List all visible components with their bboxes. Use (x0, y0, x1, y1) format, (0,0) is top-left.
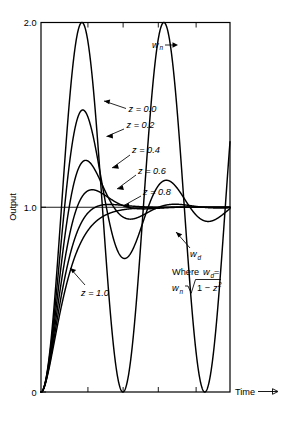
top-ticks (88, 23, 196, 28)
annotation-wn: w n (152, 40, 178, 52)
formula-wn-subscript: n (180, 288, 184, 295)
figure-container: 2.0 1.0 0 Output Time z = 0.0 z = 0.2 z … (0, 0, 281, 424)
arrowhead-z-06 (117, 185, 124, 190)
formula-where-text: Where (172, 267, 199, 277)
arrowhead-wd (176, 232, 182, 237)
wn-subscript: n (160, 44, 164, 51)
wd-subscript: d (198, 254, 202, 261)
left-ticks (41, 23, 46, 393)
z-label-10: z = 1.0 (80, 288, 110, 298)
arrowhead-wn (173, 42, 179, 47)
z-label-06: z = 0.6 (137, 166, 167, 176)
y-tick-label-bottom: 0 (31, 388, 36, 398)
annotation-formula: Where w d = w n 1 − z 2 (172, 267, 222, 295)
formula-equals: = (214, 267, 219, 277)
step-response-chart: 2.0 1.0 0 Output Time z = 0.0 z = 0.2 z … (0, 0, 281, 424)
x-axis-label: Time (235, 387, 255, 397)
annotation-z-10: z = 1.0 (70, 268, 110, 298)
annotation-z-08: z = 0.8 (123, 187, 172, 208)
y-axis-label: Output (8, 193, 18, 221)
formula-radicand: 1 − (197, 283, 210, 293)
y-tick-label-mid: 1.0 (24, 203, 37, 213)
z-label-04: z = 0.4 (131, 145, 160, 155)
formula-radicand-exponent: 2 (217, 281, 222, 288)
annotation-z-02: z = 0.2 (107, 120, 155, 138)
bottom-ticks (88, 387, 196, 392)
arrowhead-z-0 (104, 100, 110, 105)
y-tick-label-top: 2.0 (24, 18, 37, 28)
z-label-02: z = 0.2 (126, 120, 155, 130)
z-label-0: z = 0.0 (128, 104, 158, 114)
arrowhead-z-04 (112, 164, 119, 169)
z-label-08: z = 0.8 (142, 187, 172, 197)
annotation-wd: w d (176, 232, 202, 261)
annotation-z-0: z = 0.0 (104, 100, 157, 115)
